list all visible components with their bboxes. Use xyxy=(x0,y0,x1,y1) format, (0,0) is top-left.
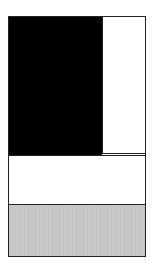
diagram-frame xyxy=(8,16,146,257)
black-block xyxy=(9,17,102,155)
right-white-panel xyxy=(102,17,145,154)
middle-white-band xyxy=(9,155,145,205)
bottom-gray-band xyxy=(9,205,145,256)
